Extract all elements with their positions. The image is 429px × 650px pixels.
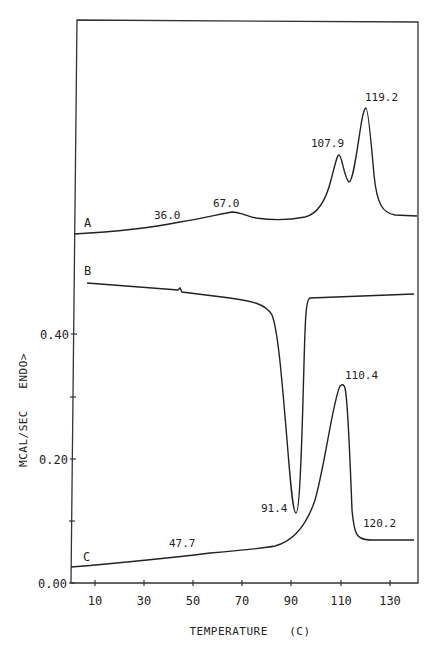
- plot-frame: [71, 20, 418, 583]
- x-tick-labels: 10 30 50 70 90 110 130: [88, 594, 401, 608]
- x-tick-130: 130: [379, 594, 401, 608]
- x-tick-110: 110: [330, 594, 352, 608]
- y-tick-0-20: 0.20: [39, 453, 68, 467]
- curve-c: [71, 385, 414, 567]
- peak-label-c-120-2: 120.2: [363, 517, 396, 530]
- curve-a: [74, 108, 417, 234]
- x-axis-title: TEMPERATURE (C): [189, 625, 310, 638]
- y-tick-0-40: 0.40: [40, 328, 69, 342]
- curve-b: [87, 283, 414, 513]
- x-tick-90: 90: [284, 594, 298, 608]
- x-tick-50: 50: [186, 594, 200, 608]
- peak-label-a-107-9: 107.9: [311, 137, 344, 150]
- dsc-chart: 10 30 50 70 90 110 130 0.00 0.20 0.40 TE…: [0, 0, 429, 650]
- y-tick-0-00: 0.00: [38, 577, 67, 591]
- peak-label-a-67: 67.0: [213, 197, 240, 210]
- peak-label-c-47-7: 47.7: [169, 537, 196, 550]
- curve-a-label: A: [84, 216, 92, 230]
- curve-c-label: C: [83, 550, 90, 564]
- peak-label-c-110-4: 110.4: [345, 369, 378, 382]
- y-axis-title: MCAL/SEC ENDO>: [17, 353, 30, 467]
- x-tick-30: 30: [137, 594, 151, 608]
- peak-label-a-119-2: 119.2: [365, 91, 398, 104]
- curve-b-label: B: [84, 264, 91, 278]
- x-tick-70: 70: [235, 594, 249, 608]
- x-tick-10: 10: [88, 594, 102, 608]
- y-tick-labels: 0.00 0.20 0.40: [38, 328, 69, 591]
- peak-label-a-36: 36.0: [154, 209, 181, 222]
- peak-label-b-91-4: 91.4: [261, 502, 288, 515]
